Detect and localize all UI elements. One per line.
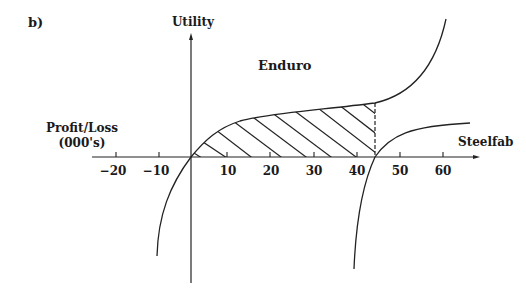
- x-tick-label: 30: [306, 164, 323, 178]
- hatched-region: [150, 98, 435, 160]
- x-tick-label: 20: [263, 164, 280, 178]
- panel-label: b): [28, 15, 43, 30]
- enduro-curve: [157, 19, 446, 256]
- x-axis-unit: (000's): [59, 136, 106, 150]
- x-tick-label: 40: [349, 164, 366, 178]
- steelfab-curve: [354, 123, 470, 269]
- y-axis: Utility: [172, 15, 215, 283]
- x-tick-label: 50: [392, 164, 409, 178]
- utility-chart: b) Utility −20 −10 10 20 30 40 50 6: [0, 0, 526, 296]
- x-axis-label: Profit/Loss: [46, 121, 118, 135]
- y-axis-label: Utility: [172, 15, 215, 29]
- enduro-label: Enduro: [258, 58, 312, 73]
- steelfab-label: Steelfab: [458, 135, 513, 149]
- x-tick-label: −10: [143, 164, 170, 178]
- x-tick-label: 60: [435, 164, 452, 178]
- x-tick-label: 10: [220, 164, 237, 178]
- x-tick-label: −20: [100, 164, 127, 178]
